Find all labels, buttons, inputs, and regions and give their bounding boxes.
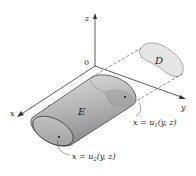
z-axis-label: z (84, 14, 90, 23)
u2-label: x = u2(y, z) (72, 152, 116, 162)
y-axis-label: y (180, 103, 186, 112)
u1-label: x = u1(y, z) (133, 118, 177, 128)
point-on-u1 (124, 96, 126, 98)
x-axis-label: x (10, 109, 15, 118)
origin-label: 0 (84, 58, 89, 67)
y-arrow-icon (179, 95, 186, 99)
z-arrow-icon (93, 13, 97, 19)
projection-label-d: D (154, 55, 163, 66)
x-arrow-icon (17, 111, 24, 117)
point-on-u2 (58, 136, 60, 138)
region-label-e: E (77, 106, 86, 117)
z-axis (93, 13, 97, 66)
type-iii-region-diagram: z 0 x y D E x = u1(y, z) x = u2(y, z) (0, 0, 196, 176)
leader-u1 (136, 103, 141, 116)
